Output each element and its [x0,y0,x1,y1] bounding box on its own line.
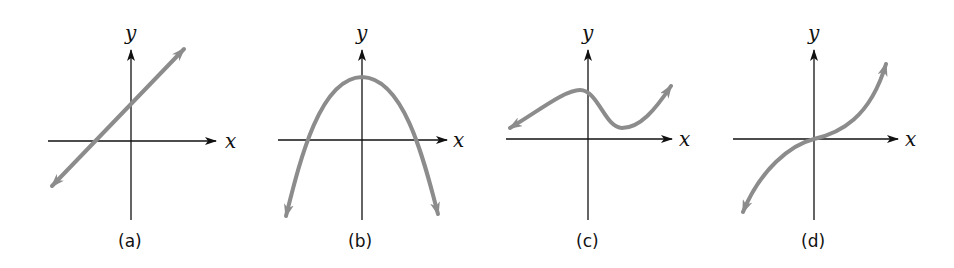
x-axis-label: x [679,127,690,151]
panel-d: x y (d) [733,21,916,251]
panel-caption: (d) [801,231,825,251]
x-axis-label: x [905,127,916,151]
cubic-curve [510,86,671,128]
panel-b: x y (b) [278,21,464,251]
panel-caption: (c) [576,231,599,251]
y-axis-label: y [355,21,368,45]
x-axis-label: x [453,128,464,152]
y-axis-label: y [124,21,137,45]
y-axis-label: y [807,21,820,45]
y-axis-label: y [581,21,594,45]
x-axis-label: x [225,129,236,153]
graphs-figure: x y (a) x y (b) x y (c) x y (d) [0,0,954,268]
panel-caption: (a) [118,231,142,251]
panel-caption: (b) [348,231,372,251]
line-curve [52,49,184,186]
panel-a: x y (a) [48,21,236,251]
panel-c: x y (c) [506,21,690,251]
